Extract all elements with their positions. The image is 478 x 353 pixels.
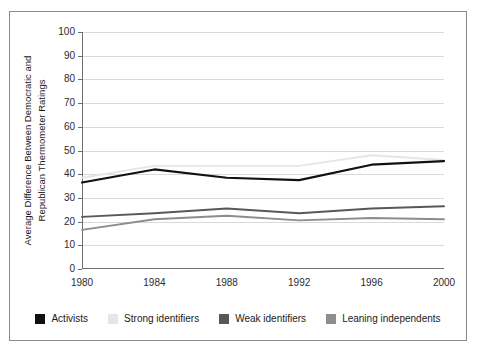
x-tick-label: 1992 (288, 278, 310, 288)
y-axis-title: Average Difference Between Democratic an… (18, 32, 52, 269)
legend-swatch-icon (219, 314, 229, 324)
legend-label: Activists (51, 314, 88, 324)
x-tick-label: 1980 (71, 278, 93, 288)
y-tick-label: 0 (69, 264, 75, 274)
legend-item-leaning-independents[interactable]: Leaning independents (326, 314, 440, 324)
y-tick-label: 50 (64, 146, 75, 156)
legend-label: Leaning independents (342, 314, 440, 324)
figure-frame: Average Difference Between Democratic an… (9, 11, 467, 341)
series-line-leaning-independents (82, 216, 444, 230)
y-tick-label: 60 (64, 122, 75, 132)
y-tick-label: 90 (64, 51, 75, 61)
y-tick-label: 100 (58, 27, 75, 37)
legend-item-activists[interactable]: Activists (35, 314, 88, 324)
legend-swatch-icon (108, 314, 118, 324)
series-lines (82, 32, 444, 269)
chart-legend: ActivistsStrong identifiersWeak identifi… (10, 314, 466, 324)
y-tick-label: 20 (64, 217, 75, 227)
series-line-weak-identifiers (82, 206, 444, 217)
y-axis-title-text: Average Difference Between Democratic an… (21, 32, 49, 269)
series-line-activists (82, 161, 444, 182)
y-tick-mark (78, 269, 82, 270)
x-tick-label: 1984 (143, 278, 165, 288)
x-tick-label: 2000 (433, 278, 455, 288)
series-line-strong-identifiers (82, 155, 444, 178)
x-tick-label: 1996 (360, 278, 382, 288)
y-tick-label: 70 (64, 98, 75, 108)
legend-swatch-icon (326, 314, 336, 324)
legend-label: Weak identifiers (235, 314, 306, 324)
y-tick-label: 80 (64, 74, 75, 84)
legend-swatch-icon (35, 314, 45, 324)
legend-item-weak-identifiers[interactable]: Weak identifiers (219, 314, 306, 324)
y-tick-label: 30 (64, 193, 75, 203)
x-tick-label: 1988 (216, 278, 238, 288)
legend-label: Strong identifiers (124, 314, 199, 324)
legend-item-strong-identifiers[interactable]: Strong identifiers (108, 314, 199, 324)
plot-area: 0102030405060708090100 19801984198819921… (82, 32, 444, 269)
y-tick-label: 10 (64, 240, 75, 250)
y-tick-label: 40 (64, 169, 75, 179)
